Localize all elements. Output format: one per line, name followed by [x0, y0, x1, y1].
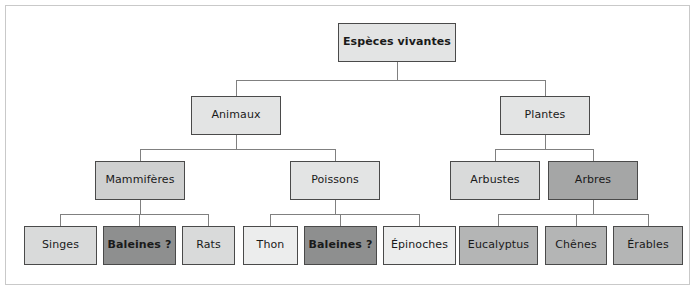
node-epinoches: Épinoches: [383, 226, 456, 265]
node-root: Espèces vivantes: [338, 23, 456, 62]
node-label-rats: Rats: [196, 239, 221, 251]
node-animaux: Animaux: [191, 96, 281, 135]
node-label-baleines2: Baleines ?: [309, 239, 373, 251]
node-label-epinoches: Épinoches: [391, 239, 448, 251]
node-thon: Thon: [243, 226, 298, 265]
node-label-erables: Érables: [627, 239, 668, 251]
node-label-arbres: Arbres: [575, 174, 611, 186]
node-singes: Singes: [24, 226, 97, 265]
node-label-plantes: Plantes: [525, 109, 566, 121]
node-label-singes: Singes: [42, 239, 79, 251]
node-poissons: Poissons: [290, 161, 380, 200]
node-arbustes: Arbustes: [450, 161, 540, 200]
node-arbres: Arbres: [548, 161, 638, 200]
node-label-poissons: Poissons: [311, 174, 359, 186]
node-mammiferes: Mammifères: [95, 161, 185, 200]
node-label-baleines1: Baleines ?: [108, 239, 172, 251]
node-label-mammiferes: Mammifères: [105, 174, 174, 186]
node-label-animaux: Animaux: [211, 109, 260, 121]
node-erables: Érables: [613, 226, 683, 265]
node-label-chenes: Chênes: [555, 239, 597, 251]
node-plantes: Plantes: [500, 96, 590, 135]
node-label-eucalyptus: Eucalyptus: [468, 239, 529, 251]
node-label-arbustes: Arbustes: [470, 174, 519, 186]
node-chenes: Chênes: [545, 226, 607, 265]
node-label-thon: Thon: [257, 239, 285, 251]
diagram-canvas: Espèces vivantesAnimauxPlantesMammifères…: [0, 0, 697, 291]
node-baleines1: Baleines ?: [103, 226, 176, 265]
node-rats: Rats: [182, 226, 235, 265]
node-label-root: Espèces vivantes: [343, 36, 451, 48]
node-baleines2: Baleines ?: [304, 226, 377, 265]
node-eucalyptus: Eucalyptus: [459, 226, 538, 265]
